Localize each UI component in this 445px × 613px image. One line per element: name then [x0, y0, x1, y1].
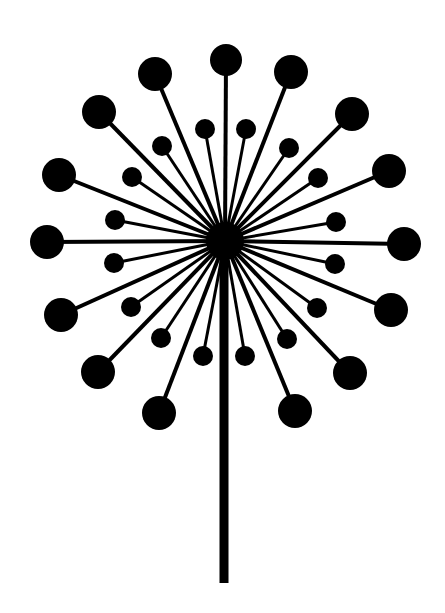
outer-seed — [82, 95, 116, 129]
inner-seed — [326, 212, 346, 232]
inner-seed — [279, 138, 299, 158]
inner-seed — [236, 119, 256, 139]
inner-seed — [277, 329, 297, 349]
outer-seed — [81, 355, 115, 389]
outer-ray — [47, 241, 225, 242]
inner-seed — [104, 253, 124, 273]
inner-seed — [307, 298, 327, 318]
outer-ray — [225, 241, 404, 244]
inner-seed — [308, 168, 328, 188]
outer-seed — [333, 356, 367, 390]
inner-seed — [122, 167, 142, 187]
dandelion-illustration — [0, 0, 445, 613]
outer-seed — [278, 394, 312, 428]
inner-seed — [152, 136, 172, 156]
inner-seed — [151, 328, 171, 348]
inner-seed — [195, 119, 215, 139]
outer-seed — [374, 293, 408, 327]
outer-seed — [210, 44, 242, 76]
inner-seed — [325, 254, 345, 274]
inner-seed — [235, 346, 255, 366]
outer-seed — [142, 396, 176, 430]
outer-seed — [387, 227, 421, 261]
outer-ray — [225, 60, 226, 241]
flower-hub — [206, 222, 244, 260]
outer-seed — [30, 225, 64, 259]
outer-seed — [372, 154, 406, 188]
outer-seed — [138, 57, 172, 91]
inner-seed — [193, 346, 213, 366]
inner-seed — [105, 210, 125, 230]
outer-seed — [335, 97, 369, 131]
outer-seed — [44, 298, 78, 332]
outer-seed — [42, 158, 76, 192]
inner-seed — [121, 297, 141, 317]
outer-seed — [274, 55, 308, 89]
